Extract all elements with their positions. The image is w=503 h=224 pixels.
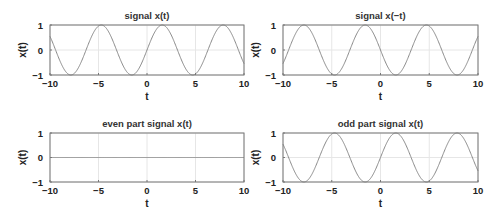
subplot-4: −10−50510−101odd part signal x(t)tx(t) bbox=[250, 118, 483, 209]
y-tick-label: 1 bbox=[271, 128, 277, 139]
x-tick-label: 10 bbox=[473, 78, 484, 89]
chart-title: even part signal x(t) bbox=[102, 118, 192, 129]
x-tick-label: −5 bbox=[326, 78, 338, 89]
y-tick-label: 0 bbox=[271, 152, 276, 163]
y-tick-label: 1 bbox=[38, 20, 44, 31]
x-tick-label: 10 bbox=[239, 185, 250, 196]
x-tick-label: 5 bbox=[427, 78, 433, 89]
x-tick-label: −10 bbox=[42, 185, 58, 196]
x-tick-label: 5 bbox=[427, 185, 433, 196]
y-axis-label: x(t) bbox=[250, 150, 261, 166]
x-tick-label: 0 bbox=[144, 78, 149, 89]
x-axis-label: t bbox=[379, 91, 383, 102]
subplot-3: −10−50510−101even part signal x(t)tx(t) bbox=[17, 118, 249, 209]
subplot-1: −10−50510−101signal x(t)tx(t) bbox=[17, 10, 249, 102]
subplot-2: −10−50510−101signal x(−t)tx(t) bbox=[250, 10, 483, 102]
x-tick-label: 0 bbox=[378, 78, 383, 89]
chart-title: odd part signal x(t) bbox=[338, 118, 424, 129]
x-tick-label: −5 bbox=[326, 185, 338, 196]
x-axis-label: t bbox=[379, 198, 383, 209]
x-tick-label: −10 bbox=[275, 78, 291, 89]
x-axis-label: t bbox=[145, 91, 149, 102]
x-tick-label: 10 bbox=[473, 185, 484, 196]
y-axis-label: x(t) bbox=[17, 42, 28, 58]
y-tick-label: 1 bbox=[271, 20, 277, 31]
y-tick-label: 0 bbox=[271, 45, 276, 56]
x-tick-label: 5 bbox=[193, 185, 199, 196]
x-tick-label: 0 bbox=[378, 185, 383, 196]
x-tick-label: −5 bbox=[93, 185, 105, 196]
figure: −10−50510−101signal x(t)tx(t)−10−50510−1… bbox=[0, 0, 503, 224]
x-tick-label: 10 bbox=[239, 78, 250, 89]
y-tick-label: 0 bbox=[38, 45, 43, 56]
chart-title: signal x(t) bbox=[125, 10, 170, 21]
chart-title: signal x(−t) bbox=[355, 10, 405, 21]
x-tick-label: −10 bbox=[275, 185, 291, 196]
y-axis-label: x(t) bbox=[250, 42, 261, 58]
x-tick-label: −5 bbox=[93, 78, 105, 89]
y-tick-label: −1 bbox=[32, 177, 44, 188]
y-tick-label: −1 bbox=[265, 70, 277, 81]
x-tick-label: 0 bbox=[144, 185, 149, 196]
x-axis-label: t bbox=[145, 198, 149, 209]
y-tick-label: 0 bbox=[38, 152, 43, 163]
y-tick-label: 1 bbox=[38, 128, 44, 139]
x-tick-label: 5 bbox=[193, 78, 199, 89]
x-tick-label: −10 bbox=[42, 78, 58, 89]
y-tick-label: −1 bbox=[265, 177, 277, 188]
y-axis-label: x(t) bbox=[17, 150, 28, 166]
y-tick-label: −1 bbox=[32, 70, 44, 81]
